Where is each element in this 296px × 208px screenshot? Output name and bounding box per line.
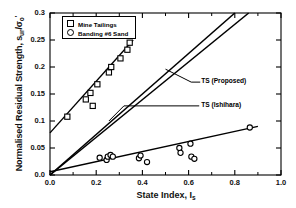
- y-tick-label: 0.2: [19, 62, 45, 71]
- x-tick-label: 0.0: [37, 178, 63, 187]
- data-point-square: [83, 97, 88, 102]
- data-point-circle: [144, 159, 149, 164]
- y-tick-label: 0.25: [19, 35, 45, 44]
- legend: Mine Tailings Banding #6 Sand: [62, 16, 136, 39]
- data-point-circle: [138, 153, 143, 158]
- x-tick-label: 0.8: [222, 178, 248, 187]
- leader-line: [109, 106, 124, 121]
- data-point-square: [106, 70, 111, 75]
- square-marker-icon: [67, 20, 74, 27]
- data-point-square: [109, 64, 114, 69]
- data-point-square: [65, 114, 70, 119]
- x-tick-label: 0.6: [176, 178, 202, 187]
- data-point-square: [95, 82, 100, 87]
- data-point-square: [127, 40, 132, 45]
- circle-marker-icon: [67, 29, 74, 36]
- x-tick-label: 1.0: [268, 178, 294, 187]
- data-point-circle: [188, 141, 193, 146]
- legend-item-mine-tailings: Mine Tailings: [67, 20, 117, 28]
- x-tick-label: 0.4: [129, 178, 155, 187]
- data-point-square: [88, 90, 93, 95]
- legend-label-banding-sand: Banding #6 Sand: [78, 30, 128, 37]
- y-tick-label: 0.15: [19, 89, 45, 98]
- chart-figure: Normalised Residual Strength, sur/σo' St…: [0, 0, 296, 208]
- fit-line: [50, 40, 133, 133]
- data-point-circle: [192, 156, 197, 161]
- annotation-ts-ishihara: TS (Ishihara): [201, 101, 241, 108]
- data-point-square: [90, 103, 95, 108]
- y-tick-label: 0.3: [19, 8, 45, 17]
- x-tick-label: 0.2: [83, 178, 109, 187]
- data-point-square: [118, 56, 123, 61]
- y-tick-label: 0.0: [19, 170, 45, 179]
- data-point-square: [125, 47, 130, 52]
- data-point-circle: [110, 154, 115, 159]
- annotation-ts-proposed: TS (Proposed): [201, 77, 246, 84]
- y-tick-label: 0.1: [19, 116, 45, 125]
- annotation-leader-lines: [109, 69, 200, 121]
- y-tick-label: 0.05: [19, 143, 45, 152]
- legend-label-mine-tailings: Mine Tailings: [78, 21, 117, 28]
- data-point-circle: [178, 150, 183, 155]
- data-point-circle: [97, 155, 102, 160]
- legend-item-banding-sand: Banding #6 Sand: [67, 29, 128, 37]
- data-point-circle: [247, 125, 252, 130]
